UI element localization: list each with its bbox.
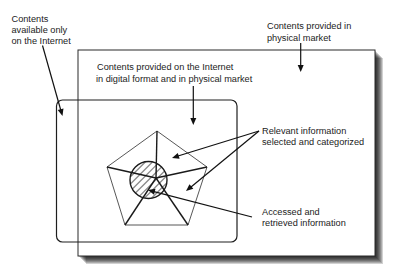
label-line: physical market bbox=[267, 33, 331, 43]
label-line: in digital format and in physical market bbox=[96, 74, 253, 84]
label-line: retrieved information bbox=[262, 218, 346, 228]
arrow-internet-only bbox=[43, 46, 64, 117]
label-digital-and-physical: Contents provided on the Internet in dig… bbox=[96, 62, 253, 84]
label-line: selected and categorized bbox=[262, 137, 364, 147]
label-line: Contents provided on the Internet bbox=[97, 62, 234, 72]
diagram-canvas: Contents available only on the Internet … bbox=[0, 0, 397, 274]
label-line: Relevant information bbox=[262, 126, 346, 136]
arrowhead-icon bbox=[58, 108, 64, 116]
label-line: Contents bbox=[12, 14, 49, 24]
label-line: Accessed and bbox=[262, 207, 320, 217]
label-line: available only bbox=[12, 25, 68, 35]
label-line: on the Internet bbox=[12, 36, 72, 46]
label-line: Contents provided in bbox=[267, 21, 351, 31]
information-sets-diagram: Contents available only on the Internet … bbox=[0, 0, 397, 274]
label-physical-market: Contents provided in physical market bbox=[267, 21, 354, 43]
label-internet-only: Contents available only on the Internet bbox=[12, 14, 72, 47]
